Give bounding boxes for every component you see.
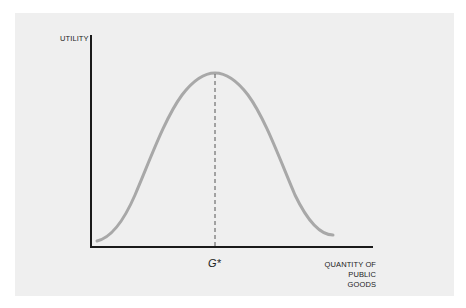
x-axis-label-line1: QUANTITY OF <box>320 260 376 270</box>
g-star-tick-label: G* <box>208 257 221 269</box>
x-axis-label-line2: PUBLIC GOODS <box>320 270 376 290</box>
chart-canvas <box>0 0 466 308</box>
x-axis-label: QUANTITY OF PUBLIC GOODS <box>320 260 376 290</box>
y-axis-label: UTILITY <box>60 34 89 44</box>
